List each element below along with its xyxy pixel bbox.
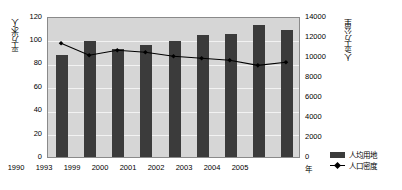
density-marker-1990: [59, 41, 64, 46]
right-axis-title: 人/平方公里: [343, 19, 354, 61]
left-axis-tick: 80: [18, 59, 42, 67]
legend-label-population-density: 人口密度: [349, 160, 377, 171]
x-tick-2005: 2005: [223, 163, 257, 172]
left-axis-tick: 120: [18, 13, 42, 21]
right-axis-tick: 8000: [305, 73, 335, 81]
density-marker-2002: [199, 56, 204, 61]
right-axis-tick: 6000: [305, 93, 335, 101]
left-axis-tick: 0: [18, 153, 42, 161]
left-axis-tick: 40: [18, 106, 42, 114]
chart-legend: 人均用地 人口密度: [330, 149, 377, 171]
right-axis-tick: 14000: [305, 13, 335, 21]
density-marker-2000: [143, 50, 148, 55]
right-axis-tick: 4000: [305, 113, 335, 121]
density-marker-2001: [171, 54, 176, 59]
density-marker-1999: [115, 48, 120, 53]
legend-item-bar: 人均用地: [330, 149, 377, 160]
density-marker-2003: [227, 58, 232, 63]
legend-item-line: 人口密度: [330, 160, 377, 171]
right-axis-tick: 2000: [305, 133, 335, 141]
x-axis-unit-label: 年: [305, 163, 312, 174]
density-marker-1993: [87, 53, 92, 58]
left-axis-tick: 100: [18, 36, 42, 44]
legend-bar-swatch-icon: [330, 152, 345, 158]
left-axis-tick: 60: [18, 83, 42, 91]
density-marker-2004: [256, 63, 261, 68]
density-marker-2005: [284, 60, 289, 65]
right-axis-tick: 10000: [305, 53, 335, 61]
population-density-line-series: [47, 17, 300, 158]
legend-line-diamond-icon: [330, 162, 345, 169]
left-axis-tick: 20: [18, 130, 42, 138]
chart-container: 平方米/人 人/平方公里 120 100 80 60 40 20 0 14000…: [0, 0, 402, 190]
right-axis-tick: 12000: [305, 33, 335, 41]
legend-label-per-capita-land: 人均用地: [349, 149, 377, 160]
